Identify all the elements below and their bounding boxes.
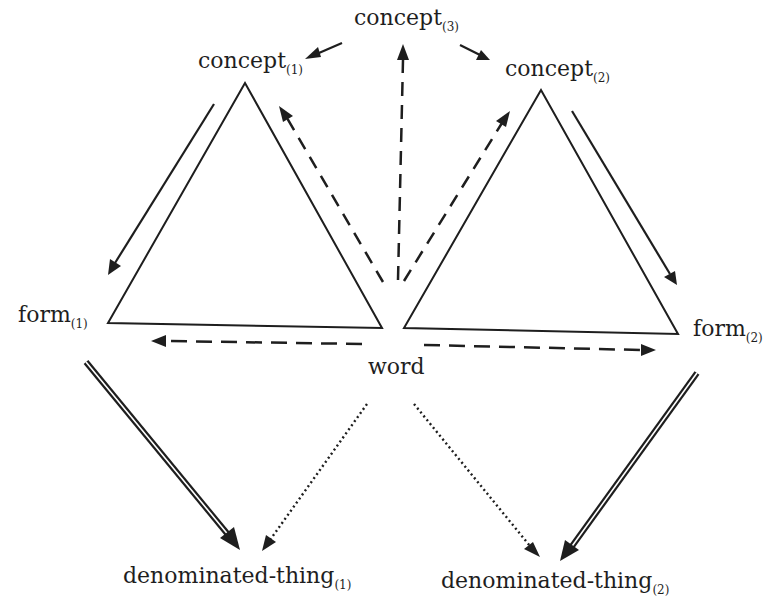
arrow-form2-to-thing2 bbox=[560, 373, 697, 561]
node-concept1-text: concept bbox=[198, 48, 286, 73]
node-thing2-text: denominated-thing bbox=[441, 568, 652, 593]
arrow-word-to-thing1 bbox=[262, 404, 367, 551]
node-thing1-text: denominated-thing bbox=[123, 563, 334, 588]
node-thing1-subscript: (1) bbox=[334, 578, 351, 592]
semiotic-diagram: concept(3) concept(1) concept(2) form(1)… bbox=[0, 0, 776, 614]
node-thing2: denominated-thing(2) bbox=[441, 568, 669, 597]
node-concept3-text: concept bbox=[354, 5, 442, 30]
arrow-word-to-form2 bbox=[424, 344, 656, 356]
arrow-word-to-concept1 bbox=[279, 106, 383, 282]
node-form2-subscript: (2) bbox=[746, 331, 763, 345]
node-concept2-subscript: (2) bbox=[593, 71, 610, 85]
arrow-word-to-concept3 bbox=[397, 44, 409, 280]
node-form1: form(1) bbox=[18, 302, 88, 331]
arrow-form1-to-thing1 bbox=[86, 362, 240, 550]
node-concept1: concept(1) bbox=[198, 48, 303, 77]
triangle-right bbox=[404, 90, 678, 334]
node-thing1: denominated-thing(1) bbox=[123, 563, 351, 592]
arrow-word-to-concept2 bbox=[404, 111, 510, 281]
arrow-concept3-to-concept1 bbox=[305, 43, 342, 59]
node-form1-subscript: (1) bbox=[71, 317, 88, 331]
node-form1-text: form bbox=[18, 302, 71, 327]
node-concept2-text: concept bbox=[505, 56, 593, 81]
node-word: word bbox=[368, 354, 425, 379]
node-concept3: concept(3) bbox=[354, 5, 459, 34]
node-form2: form(2) bbox=[693, 316, 763, 345]
node-concept2: concept(2) bbox=[505, 56, 610, 85]
triangle-left bbox=[108, 83, 382, 328]
arrow-word-to-form1 bbox=[151, 335, 362, 347]
node-word-text: word bbox=[368, 354, 425, 379]
node-thing2-subscript: (2) bbox=[652, 583, 669, 597]
arrow-concept3-to-concept2 bbox=[460, 45, 490, 60]
node-form2-text: form bbox=[693, 316, 746, 341]
node-concept1-subscript: (1) bbox=[286, 63, 303, 77]
arrow-concept2-to-form2 bbox=[572, 111, 677, 285]
arrow-concept1-to-form1 bbox=[108, 104, 214, 275]
arrow-word-to-thing2 bbox=[414, 404, 540, 557]
node-concept3-subscript: (3) bbox=[442, 20, 459, 34]
